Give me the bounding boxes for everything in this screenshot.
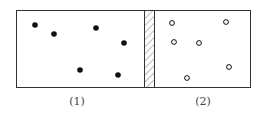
partition-wall	[145, 11, 155, 88]
chamber-1-label: (1)	[69, 95, 85, 108]
container-box	[17, 11, 251, 88]
chamber-diagram	[0, 0, 265, 117]
filled-particle	[93, 25, 99, 31]
hollow-particle	[170, 21, 175, 26]
hollow-particle	[197, 41, 202, 46]
chamber-2-particles	[170, 20, 232, 81]
filled-particle	[115, 72, 121, 78]
hollow-particle	[224, 20, 229, 25]
filled-particle	[51, 31, 57, 37]
hollow-particle	[227, 65, 232, 70]
filled-particle	[32, 22, 38, 28]
chamber-2-label: (2)	[195, 95, 211, 108]
filled-particle	[77, 67, 83, 73]
hollow-particle	[172, 40, 177, 45]
hollow-particle	[185, 76, 190, 81]
chamber-1-particles	[32, 22, 127, 78]
filled-particle	[121, 40, 127, 46]
